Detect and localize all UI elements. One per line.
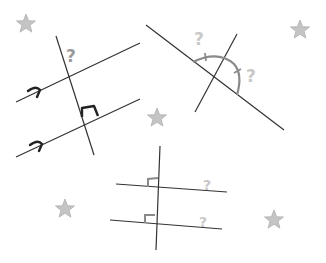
star-icon (148, 108, 167, 126)
straight-line (146, 25, 284, 130)
right-angle-mark-icon (145, 215, 155, 223)
star-icon (265, 210, 284, 228)
right-angle-mark-icon (82, 106, 98, 117)
parallel-line-bottom (16, 99, 140, 157)
unknown-angle-label: ? (194, 29, 204, 49)
unknown-angle-label: ? (199, 214, 207, 230)
geometry-diagram: ? ? ? ? ? (0, 0, 326, 263)
angle-tick-icon (205, 53, 206, 61)
unknown-angle-label: ? (246, 66, 256, 86)
unknown-angle-label: ? (66, 46, 76, 66)
star-icon (56, 199, 75, 217)
unknown-angle-label: ? (203, 177, 211, 193)
decorative-stars (17, 14, 310, 228)
right-angle-mark-icon (148, 178, 158, 187)
figure-parallel-lines: ? (16, 36, 140, 157)
parallel-line-top (16, 43, 140, 102)
figure-perpendicular-lines: ? ? (110, 146, 227, 250)
diagram-canvas: ? ? ? ? ? (0, 0, 326, 263)
star-icon (291, 20, 310, 38)
figure-straight-angle: ? ? (146, 25, 284, 130)
angle-arc-icon (193, 56, 239, 95)
star-icon (17, 14, 36, 32)
transversal-line (156, 146, 160, 250)
